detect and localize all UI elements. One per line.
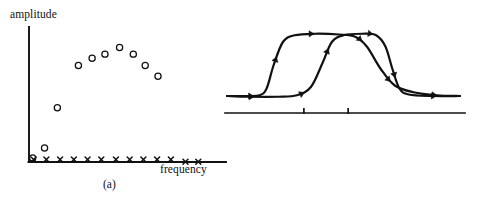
direction-arrow-icon: [249, 94, 254, 100]
panel-b-response-curves: (b): [215, 0, 483, 203]
data-point-circle: [54, 105, 60, 111]
panel-b-direction-arrows: [249, 30, 438, 100]
data-point-circle: [155, 73, 161, 79]
panel-a-axes: [29, 27, 227, 162]
data-point-circle: [130, 51, 136, 57]
panel-b-canvas: [215, 0, 483, 203]
panel-b-curve-traces: [227, 34, 460, 97]
panel-a-circle-markers: [30, 44, 162, 161]
data-point-circle: [75, 62, 81, 68]
data-point-circle: [41, 145, 47, 151]
panel-a-scatter-plot: amplitude frequency (a): [0, 0, 240, 203]
response-curve: [227, 34, 460, 97]
direction-arrow-icon: [368, 30, 374, 37]
data-point-circle: [102, 51, 108, 57]
panel-a-caption: (a): [103, 178, 116, 190]
direction-arrow-icon: [309, 31, 314, 37]
data-point-circle: [116, 44, 122, 50]
response-curve: [227, 34, 460, 96]
data-point-circle: [142, 62, 148, 68]
figure-container: amplitude frequency (a) (b): [0, 0, 483, 203]
panel-a-canvas: [0, 0, 240, 203]
data-point-circle: [89, 55, 95, 61]
panel-b-baseline-axis: [225, 108, 465, 114]
panel-a-cross-markers: [31, 157, 201, 164]
